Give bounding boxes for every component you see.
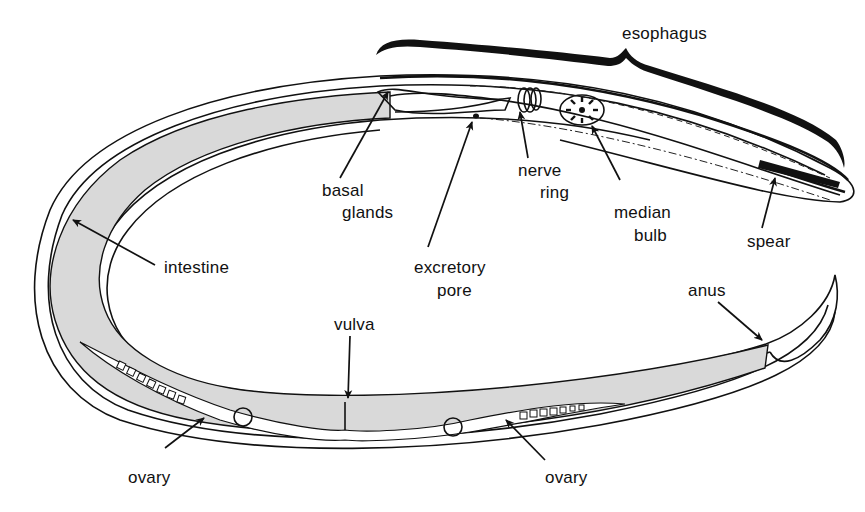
median-bulb-structure: [560, 95, 604, 125]
arrow-excretory-pore: [428, 122, 472, 247]
nematode-anatomy-diagram: esophagus basal glands nerve ring median…: [0, 0, 865, 512]
label-esophagus: esophagus: [622, 24, 707, 43]
excretory-pore-dot: [473, 114, 479, 119]
esophagus-structure: [376, 40, 848, 200]
arrow-anus: [718, 302, 762, 340]
arrow-spear: [762, 178, 775, 228]
label-excretory-pore-1: excretory: [414, 258, 486, 277]
label-median-bulb-1: median: [614, 203, 671, 222]
arrow-vulva: [348, 336, 350, 398]
label-anus: anus: [688, 281, 726, 300]
label-excretory-pore-2: pore: [437, 281, 472, 300]
nerve-ring-structure: [518, 88, 541, 112]
label-basal-glands-1: basal: [322, 181, 364, 200]
arrow-nerve-ring: [520, 112, 528, 158]
label-median-bulb-2: bulb: [634, 226, 667, 245]
label-intestine: intestine: [164, 258, 229, 277]
label-basal-glands-2: glands: [342, 203, 393, 222]
label-nerve-ring-1: nerve: [518, 161, 562, 180]
label-ovary-left: ovary: [128, 468, 171, 487]
label-ovary-right: ovary: [545, 468, 588, 487]
label-vulva: vulva: [334, 315, 375, 334]
arrow-median-bulb: [592, 126, 620, 180]
esophagus-brace: [376, 40, 845, 168]
label-nerve-ring-2: ring: [540, 183, 569, 202]
label-spear: spear: [747, 232, 791, 251]
